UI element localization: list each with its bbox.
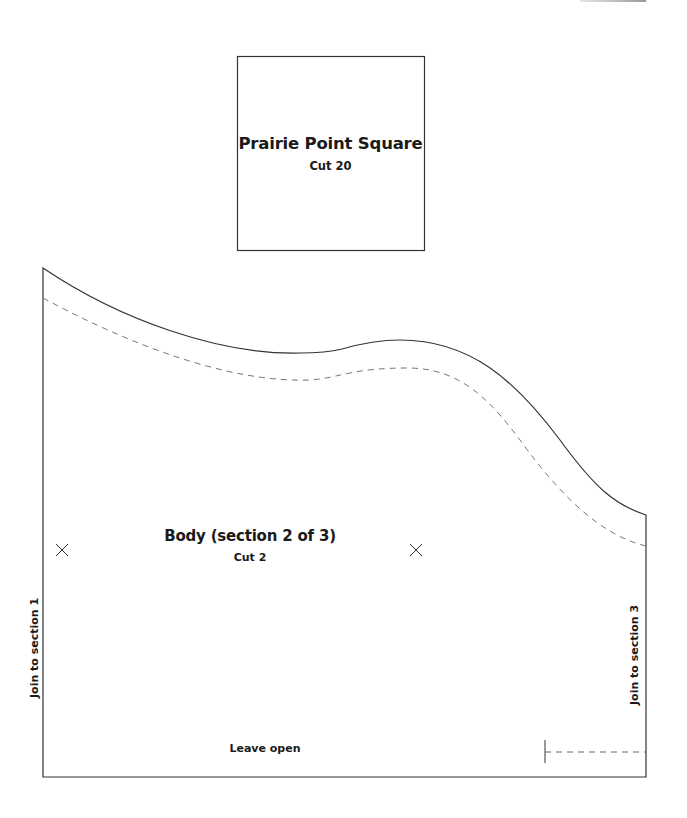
pattern-artwork [0,0,687,818]
body-piece-cut: Cut 2 [150,551,350,564]
body-piece-outline [43,268,646,777]
join-section-1-label: Join to section 1 [28,598,41,698]
prairie-square-cut: Cut 20 [237,159,424,173]
body-piece-title: Body (section 2 of 3) [150,527,350,545]
join-section-3-label: Join to section 3 [628,605,641,705]
leave-open-label: Leave open [200,742,330,755]
x-mark-icon [410,544,422,556]
x-mark-icon [56,544,68,556]
seam-line-dashed [43,298,646,546]
prairie-square-outline [238,57,425,251]
prairie-square-title: Prairie Point Square [237,134,424,153]
